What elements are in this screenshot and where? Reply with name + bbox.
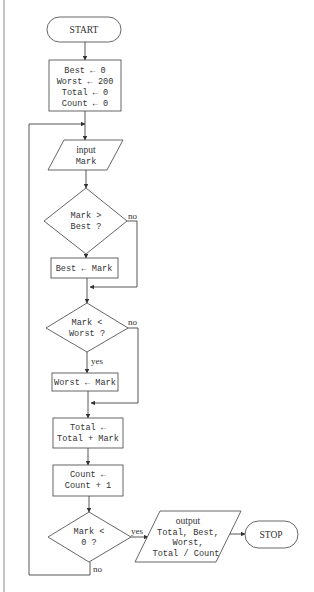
decision-end-no-label: no [93,564,103,574]
decision-worst-line2: Worst ? [69,329,105,339]
output-parallelogram: output Total, Best, Worst, Total / Count [135,511,241,562]
output-line1: Total, Best, [157,528,219,538]
update-total-box: Total ← Total + Mark [53,418,123,448]
assign-best-box: Best ← Mark [51,258,118,278]
output-line3: Total / Count [152,549,219,559]
stop-label: STOP [259,530,282,540]
decision-worst-diamond: Mark < Worst ? [46,303,128,352]
decision-best-no-label: no [128,211,138,221]
update-total-line2: Total + Mark [57,434,119,444]
assign-best-text: Best ← Mark [56,264,113,274]
output-line2: Worst, [173,538,204,548]
init-process-box: Best ← 0 Worst ← 200 Total ← 0 Count ← 0 [49,60,121,111]
input-keyword: input [76,145,96,155]
start-terminator: START [47,17,121,42]
stop-terminator: STOP [245,521,298,548]
decision-best-line2: Best ? [71,222,102,232]
init-line-total: Total ← 0 [62,88,108,98]
decision-end-line1: Mark < [74,527,105,537]
flowchart-canvas: START Best ← 0 Worst ← 200 Total ← 0 Cou… [0,0,314,592]
output-keyword: output [176,516,201,526]
decision-best-diamond: Mark > Best ? [44,188,127,254]
assign-worst-box: Worst ← Mark [52,373,118,391]
init-line-count: Count ← 0 [62,99,108,109]
update-total-line1: Total ← [70,423,107,433]
decision-end-diamond: Mark < 0 ? [48,512,131,562]
decision-worst-yes-label: yes [91,356,103,366]
init-line-worst: Worst ← 200 [57,77,114,87]
decision-end-yes-label: yes [131,526,143,536]
update-count-box: Count ← Count + 1 [53,465,123,496]
decision-worst-line1: Mark < [72,318,103,328]
assign-worst-text: Worst ← Mark [54,378,116,388]
update-count-line2: Count + 1 [65,481,111,491]
update-count-line1: Count ← [70,470,107,480]
decision-best-line1: Mark > [71,211,102,221]
input-parallelogram: input Mark [48,140,123,170]
decision-worst-no-label: no [128,317,138,327]
start-label: START [70,25,99,35]
decision-end-line2: 0 ? [81,538,96,548]
input-variable: Mark [76,157,97,167]
init-line-best: Best ← 0 [64,66,105,76]
